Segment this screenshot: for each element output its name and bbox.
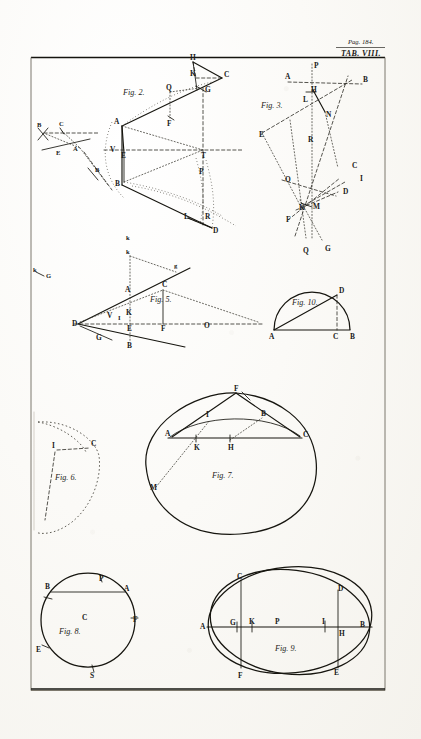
- fig9-point-P: P: [275, 617, 280, 626]
- fig3-point-I: I: [360, 174, 363, 183]
- fig5-point-A: A: [125, 285, 131, 294]
- fig8-point-A: A: [124, 584, 130, 593]
- fig2-point-T: T: [201, 151, 206, 160]
- figure-8-caption: Fig. 8.: [58, 627, 81, 636]
- fig9-point-C: C: [237, 572, 242, 581]
- fig9-point-A: A: [200, 622, 206, 631]
- fig2-point-Q: Q: [166, 83, 172, 92]
- fig6-point-I: I: [52, 441, 55, 450]
- fig7-point-A: A: [165, 429, 171, 438]
- fig5-point-V: V: [107, 311, 113, 320]
- fig5-point-C: C: [162, 280, 167, 289]
- fig5-point-O: O: [204, 321, 210, 330]
- fig7-point-K: K: [194, 443, 200, 452]
- fig5-margin-point-G: G: [46, 272, 51, 279]
- fig2-point-K: K: [190, 69, 196, 78]
- fig3-point-K: K: [299, 203, 305, 212]
- fig1-point-B2: B: [95, 166, 100, 173]
- fig7-point-H: H: [228, 443, 234, 452]
- figure-9-caption: Fig. 9.: [274, 644, 297, 653]
- fig5-margin-point-k: k: [33, 266, 37, 273]
- fig5-point-D: D: [72, 319, 77, 328]
- fig2-point-H: H: [190, 53, 196, 62]
- figure-5-caption: Fig. 5.: [149, 295, 172, 304]
- fig2-point-G: G: [205, 85, 211, 94]
- fig1-point-A: A: [73, 145, 78, 152]
- fig7-point-M: M: [150, 483, 157, 492]
- fig3-point-D: D: [343, 187, 348, 196]
- fig1-point-E: E: [56, 149, 61, 156]
- figure-5: Fig. 5. k g C A K V I D E F O G B k G: [33, 248, 262, 350]
- fig1-point-B: B: [37, 121, 42, 128]
- fig3-point-Q: Q: [303, 246, 309, 255]
- fig8-point-C: C: [82, 613, 87, 622]
- fig2-point-k: k: [126, 234, 130, 241]
- fig2-point-E: E: [121, 151, 126, 160]
- figure-10: Fig. 10. A C B D: [269, 286, 355, 341]
- fig3-point-O: O: [285, 175, 291, 184]
- fig3-point-B: B: [363, 75, 368, 84]
- fig7-point-C: C: [303, 430, 308, 439]
- fig10-point-D: D: [339, 286, 344, 295]
- fig8-point-E: E: [36, 645, 41, 654]
- fig3-point-E: E: [259, 130, 264, 139]
- fig9-point-H: H: [339, 629, 345, 638]
- fig2-point-B: B: [115, 179, 120, 188]
- figure-3-caption: Fig. 3.: [260, 101, 283, 110]
- figure-2-caption: Fig. 2.: [122, 88, 145, 97]
- fig8-point-F: F: [133, 615, 138, 624]
- fig7-point-B: B: [261, 409, 266, 418]
- fig2-point-C: C: [224, 70, 229, 79]
- fig1-point-C: C: [59, 120, 64, 127]
- fig5-point-B: B: [127, 341, 132, 350]
- fig9-point-B: B: [360, 620, 365, 629]
- fig3-point-R: R: [308, 135, 314, 144]
- fig2-point-V: V: [110, 145, 116, 154]
- fig3-point-H: H: [311, 85, 317, 94]
- figure-1: B C A E B: [37, 120, 112, 190]
- fig2-point-P: P: [199, 167, 204, 176]
- fig5-point-k: k: [126, 248, 130, 255]
- fig5-point-K: K: [126, 308, 132, 317]
- fig9-point-K: K: [249, 617, 255, 626]
- figure-3: Fig. 3. P A B H L N E R C I O D K M F Q …: [259, 61, 368, 255]
- engraved-plate: Pag. 184. TAB. VIII. B C A E B: [0, 0, 421, 739]
- fig5-point-F: F: [161, 324, 166, 333]
- fig10-point-A: A: [269, 332, 275, 341]
- fig10-point-B: B: [350, 332, 355, 341]
- fig8-point-B: B: [45, 582, 50, 591]
- figure-2: Fig. 2. H K C Q G F A V E T P B L R D k: [104, 53, 243, 241]
- fig2-point-F: F: [167, 119, 172, 128]
- plate-drawing: Pag. 184. TAB. VIII. B C A E B: [0, 0, 421, 739]
- fig9-point-F: F: [238, 671, 243, 680]
- figure-7-caption: Fig. 7.: [211, 471, 234, 480]
- fig7-point-I: I: [206, 410, 209, 419]
- fig2-point-A: A: [114, 117, 120, 126]
- page-reference: Pag. 184.: [347, 38, 374, 45]
- fig2-point-D: D: [213, 226, 218, 235]
- fig3-point-L: L: [303, 95, 308, 104]
- fig3-point-F: F: [286, 215, 291, 224]
- fig3-point-P: P: [314, 61, 319, 70]
- fig9-point-G: G: [230, 618, 236, 627]
- fig9-point-D: D: [338, 584, 343, 593]
- fig5-point-g: g: [174, 262, 178, 269]
- fig2-point-L: L: [184, 212, 189, 221]
- figure-7: Fig. 7. F I B A K H C M: [146, 384, 317, 534]
- figure-9: Fig. 9. C D A G K P I H B F E: [200, 559, 377, 684]
- fig3-point-M: M: [313, 202, 320, 211]
- figure-6: Fig. 6. I C: [34, 412, 100, 533]
- plate-header: Pag. 184. TAB. VIII.: [336, 38, 385, 58]
- fig10-point-C: C: [333, 332, 338, 341]
- fig8-point-P: P: [99, 574, 104, 583]
- tab-label: TAB. VIII.: [341, 49, 381, 58]
- fig3-point-A: A: [285, 72, 291, 81]
- fig5-point-I: I: [118, 314, 121, 321]
- fig2-point-R: R: [205, 212, 211, 221]
- fig3-point-N: N: [326, 110, 332, 119]
- figure-10-caption: Fig. 10.: [291, 298, 318, 307]
- fig5-point-E: E: [127, 324, 132, 333]
- fig8-point-S: S: [90, 671, 94, 680]
- fig5-point-G: G: [96, 333, 102, 342]
- figure-6-caption: Fig. 6.: [54, 473, 77, 482]
